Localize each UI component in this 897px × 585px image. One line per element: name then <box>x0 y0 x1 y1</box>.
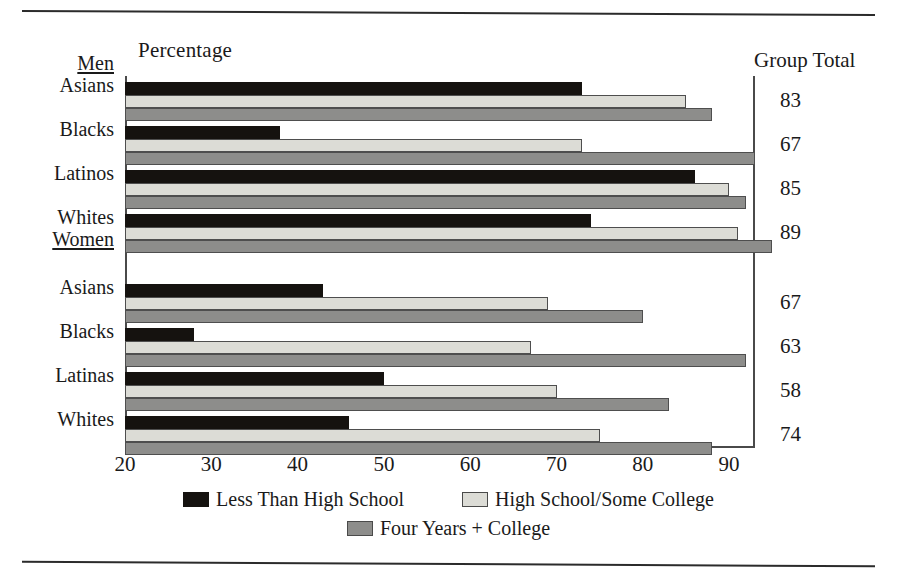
bar <box>125 310 643 323</box>
bar <box>125 354 746 367</box>
x-tick-label: 50 <box>373 452 394 477</box>
row-label: Blacks <box>60 320 114 343</box>
group-total-value: 63 <box>780 334 801 359</box>
bars-layer <box>125 76 755 448</box>
bottom-rule <box>22 561 875 567</box>
bar <box>125 170 695 183</box>
bar <box>125 108 712 121</box>
x-tick-label: 30 <box>201 452 222 477</box>
bar <box>125 372 384 385</box>
row-label: Asians <box>60 74 114 97</box>
group-total-value: 89 <box>780 220 801 245</box>
legend-swatch-icon <box>462 492 488 507</box>
x-tick-label: 60 <box>460 452 481 477</box>
x-tick-label: 40 <box>287 452 308 477</box>
bar <box>125 341 531 354</box>
legend-label: Four Years + College <box>380 517 550 540</box>
x-tick-label: 70 <box>546 452 567 477</box>
group-total-value: 67 <box>780 132 801 157</box>
figure-root: Percentage Group Total MenWomenAsiansBla… <box>0 0 897 585</box>
bar <box>125 196 746 209</box>
legend-item-high-school-some-college: High School/Some College <box>462 488 714 511</box>
row-label-column: MenWomenAsiansBlacksLatinosWhitesAsiansB… <box>0 52 122 452</box>
x-tick-label: 80 <box>632 452 653 477</box>
legend-item-four-years-college: Four Years + College <box>347 517 550 540</box>
legend-item-less-than-high-school: Less Than High School <box>183 488 404 511</box>
bar <box>125 214 591 227</box>
bar <box>125 328 194 341</box>
section-label-men: Men <box>77 52 114 75</box>
legend-swatch-icon <box>183 492 209 507</box>
section-label-women: Women <box>52 228 114 251</box>
bar <box>125 95 686 108</box>
x-tick-label: 90 <box>719 452 740 477</box>
legend-label: Less Than High School <box>216 488 404 511</box>
row-label: Latinas <box>55 364 114 387</box>
bar <box>125 82 582 95</box>
row-label: Blacks <box>60 118 114 141</box>
bar <box>125 139 582 152</box>
bar <box>125 398 669 411</box>
group-total-value: 58 <box>780 378 801 403</box>
legend-label: High School/Some College <box>495 488 714 511</box>
legend-swatch-icon <box>347 521 373 536</box>
row-label: Latinos <box>54 162 114 185</box>
row-label: Asians <box>60 276 114 299</box>
top-rule <box>22 10 875 16</box>
bar <box>125 284 323 297</box>
axis-caption: Percentage <box>138 38 232 63</box>
bar <box>125 183 729 196</box>
bar <box>125 385 557 398</box>
legend-row-2: Four Years + College <box>0 517 897 540</box>
group-total-value: 74 <box>780 422 801 447</box>
row-label: Whites <box>57 206 114 229</box>
group-total-value: 67 <box>780 290 801 315</box>
x-axis-ticks: 2030405060708090 <box>125 452 755 482</box>
bar <box>125 297 548 310</box>
bar <box>125 416 349 429</box>
bar <box>125 429 600 442</box>
legend: Less Than High School High School/Some C… <box>0 488 897 546</box>
legend-row-1: Less Than High School High School/Some C… <box>0 488 897 511</box>
bar <box>125 227 738 240</box>
bar <box>125 152 755 165</box>
x-tick-label: 20 <box>115 452 136 477</box>
row-label: Whites <box>57 408 114 431</box>
bar <box>125 126 280 139</box>
group-total-column: 8367858967635874 <box>780 76 850 448</box>
group-total-header: Group Total <box>754 48 855 73</box>
group-total-value: 83 <box>780 88 801 113</box>
group-total-value: 85 <box>780 176 801 201</box>
bar <box>125 240 772 253</box>
